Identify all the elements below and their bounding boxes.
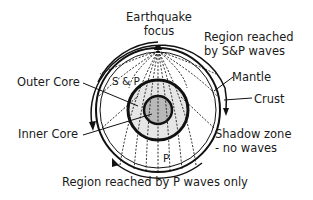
region-sp-label-line2: by S&P waves bbox=[204, 44, 294, 58]
region-sp-label-line1: Region reached bbox=[204, 30, 294, 44]
mantle-label: Mantle bbox=[232, 70, 271, 84]
crust-label: Crust bbox=[254, 92, 285, 106]
shadow-zone-label-line2: - no waves bbox=[215, 141, 291, 155]
region-sp-label: Region reached by S&P waves bbox=[204, 30, 294, 58]
p-inner-label: P bbox=[163, 151, 169, 165]
arrow-right-icon bbox=[223, 108, 229, 116]
inner-core-label: Inner Core bbox=[18, 127, 78, 141]
shadow-zone-label: Shadow zone - no waves bbox=[215, 127, 291, 155]
focus-label-line1: Earthquake bbox=[124, 10, 194, 24]
shadow-zone-label-line1: Shadow zone bbox=[215, 127, 291, 141]
sp-inner-label: S & P bbox=[112, 74, 140, 88]
arrow-left-icon bbox=[89, 121, 96, 131]
sp-region-arc-right-down bbox=[225, 88, 226, 110]
region-p-label: Region reached by P waves only bbox=[62, 175, 248, 189]
earthquake-focus-label: Earthquake focus bbox=[124, 10, 194, 38]
focus-label-line2: focus bbox=[124, 24, 194, 38]
outer-core-label: Outer Core bbox=[17, 75, 80, 89]
